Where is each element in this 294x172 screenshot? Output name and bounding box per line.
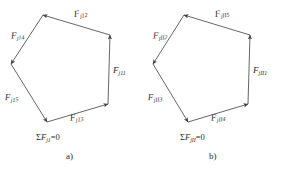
vector-label-fj11: Fj11 [113,66,126,76]
vector-label-fj12: Fj12 [73,8,87,19]
panel-caption-b: b) [209,152,217,161]
vector-arrow-fjii1 [248,35,250,104]
vector-subscript: jII1 [259,70,268,76]
vector-label-fjii5: FjII5 [214,8,229,20]
equals-zero: =0 [51,132,60,142]
vector-label-fj14: Fj14 [11,31,25,42]
vector-subscript: j12 [79,12,87,19]
vector-label-fj13: Fj13 [69,112,83,123]
vector-label-fj15: Fj15 [5,93,19,103]
vector-subscript: j14 [17,34,25,41]
vector-subscript: j13 [75,116,83,123]
panel-b: FjII5 FjII2 FjII1 FjII3 FjII4 ΣFjII=0 b) [147,0,294,172]
force-polygon-figure: Fj12 Fj14 Fj11 Fj15 Fj13 ΣFj1=0 a) [0,0,294,172]
vector-subscript: jII2 [159,34,168,41]
panel-a: Fj12 Fj14 Fj11 Fj15 Fj13 ΣFj1=0 a) [0,0,147,172]
equilibrium-equation-b: ΣFjII=0 [180,133,205,143]
vector-subscript: j11 [119,70,126,76]
vector-subscript: jII3 [154,96,163,102]
vector-label-fjii4: FjII4 [210,112,225,123]
vector-arrow-fj11 [108,35,110,104]
vector-label-fjii1: FjII1 [253,66,267,76]
equilibrium-equation-a: ΣFj1=0 [36,133,60,143]
panel-caption-a: a) [66,152,73,161]
vector-label-fjii2: FjII2 [153,31,168,42]
vector-subscript: jII5 [220,12,229,19]
vector-subscript: jII4 [216,116,225,123]
vector-label-fjii3: FjII3 [148,93,163,103]
vector-subscript: j15 [11,96,19,102]
equals-zero: =0 [196,132,205,142]
polygon-b-graphic [147,0,294,150]
